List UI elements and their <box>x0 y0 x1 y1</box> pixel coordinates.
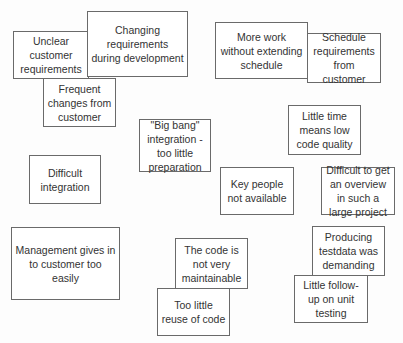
note-text: Difficult to get an overview in such a l… <box>325 163 391 219</box>
note-difficult-overview: Difficult to get an overview in such a l… <box>321 167 395 215</box>
note-text: Changing requirements during development <box>91 23 184 65</box>
note-too-little-reuse: Too little reuse of code <box>157 288 230 336</box>
note-text: Schedule requirements from customer <box>311 30 377 86</box>
note-text: Too little reuse of code <box>161 298 226 326</box>
note-difficult-integration: Difficult integration <box>29 155 101 204</box>
note-schedule-requirements: Schedule requirements from customer <box>307 33 381 83</box>
note-text: Little time means low code quality <box>292 109 357 151</box>
note-producing-testdata: Producing testdata was demanding <box>312 226 385 276</box>
note-changing-requirements: Changing requirements during development <box>87 11 188 77</box>
note-text: Unclear customer requirements <box>17 34 85 76</box>
note-text: The code is not very maintainable <box>179 243 244 285</box>
note-text: "Big bang" integration - too little prep… <box>143 118 207 174</box>
note-little-time-low-quality: Little time means low code quality <box>288 105 361 155</box>
note-more-work-without-schedule: More work without extending schedule <box>215 22 308 79</box>
note-key-people-not-available: Key people not available <box>220 167 294 215</box>
note-code-not-maintainable: The code is not very maintainable <box>175 238 248 289</box>
note-big-bang-integration: "Big bang" integration - too little prep… <box>139 119 211 172</box>
note-text: Key people not available <box>224 177 290 205</box>
note-text: More work without extending schedule <box>219 30 304 72</box>
note-text: Difficult integration <box>33 166 97 194</box>
note-little-follow-up: Little follow-up on unit testing <box>294 275 368 323</box>
note-text: Management gives in to customer too easi… <box>15 243 116 285</box>
note-frequent-changes: Frequent changes from customer <box>43 78 116 127</box>
note-text: Frequent changes from customer <box>47 82 112 124</box>
note-text: Little follow-up on unit testing <box>298 278 364 320</box>
note-text: Producing testdata was demanding <box>316 230 381 272</box>
note-management-gives-in: Management gives in to customer too easi… <box>11 227 120 300</box>
diagram-canvas: Unclear customer requirements Changing r… <box>0 0 403 343</box>
note-unclear-customer-requirements: Unclear customer requirements <box>13 31 89 79</box>
